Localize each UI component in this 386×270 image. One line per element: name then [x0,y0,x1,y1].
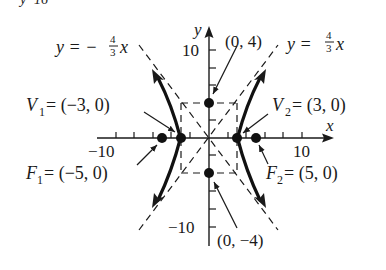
y-axis: 10 −10 y [168,20,216,246]
y-tick-label-neg10: −10 [168,218,195,237]
asymptote-pos-var: x [335,34,344,54]
cutoff-equation-text: y² 16 [18,0,48,7]
asymptote-pos-lhs: y = [285,34,312,54]
asymptote-neg-var: x [119,37,128,57]
y-axis-label: y [192,20,202,39]
vertex-v1-dot [176,133,186,143]
pointer-v2 [243,114,268,133]
label-f2-sub: 2 [277,173,283,187]
hyperbola-diagram: y² 16 −10 10 x [0,0,386,270]
label-f1-sub: 1 [37,173,43,187]
asymptote-pos-den: 3 [326,42,332,54]
arrow-icon-right-top [254,69,266,84]
arrow-icon-left-bottom [152,193,164,208]
co-vertex-bottom-dot [204,168,214,178]
x-tick-label-neg10: −10 [88,142,115,161]
focus-f1-dot [157,133,167,143]
asymptote-neg-den: 3 [110,46,116,58]
x-tick-label-10: 10 [293,142,310,161]
asymptote-neg-num: 4 [110,33,116,45]
cutoff-equation: y² 16 [18,0,48,7]
label-f1: F 1 = (−5, 0) [25,163,108,187]
y-tick-label-10: 10 [182,41,199,60]
pointer-v1 [144,112,175,132]
pointer-co-vertex-bottom [214,182,237,228]
co-vertex-top-dot [204,98,214,108]
label-v2-sub: 2 [285,105,291,119]
label-v2-value: = (3, 0) [292,95,346,116]
x-axis-label: x [325,116,334,135]
label-co-vertex-bottom: (0, −4) [217,231,263,250]
label-v1-sub: 1 [39,105,45,119]
label-f1-value: = (−5, 0) [44,163,108,184]
vertex-v2-dot [232,133,242,143]
label-v1-name: V [26,95,39,115]
label-v1-value: = (−3, 0) [46,95,110,116]
pointer-f1 [137,145,157,165]
pointer-f2 [259,145,268,164]
asymptote-neg-lhs: y = − [54,37,97,57]
label-co-vertex-top: (0, 4) [225,32,262,51]
label-v1: V 1 = (−3, 0) [26,95,110,119]
x-axis: −10 10 x [88,116,334,161]
label-v2-name: V [272,95,285,115]
label-f2: F 2 = (5, 0) [265,163,338,187]
label-f2-value: = (5, 0) [284,163,338,184]
asymptote-pos-num: 4 [326,29,332,41]
pointer-co-vertex-top [213,46,237,94]
asymptote-label-positive: y = 4 3 x [285,29,344,54]
focus-f2-dot [251,133,261,143]
label-v2: V 2 = (3, 0) [272,95,346,119]
asymptote-label-negative: y = − 4 3 x [54,33,128,58]
